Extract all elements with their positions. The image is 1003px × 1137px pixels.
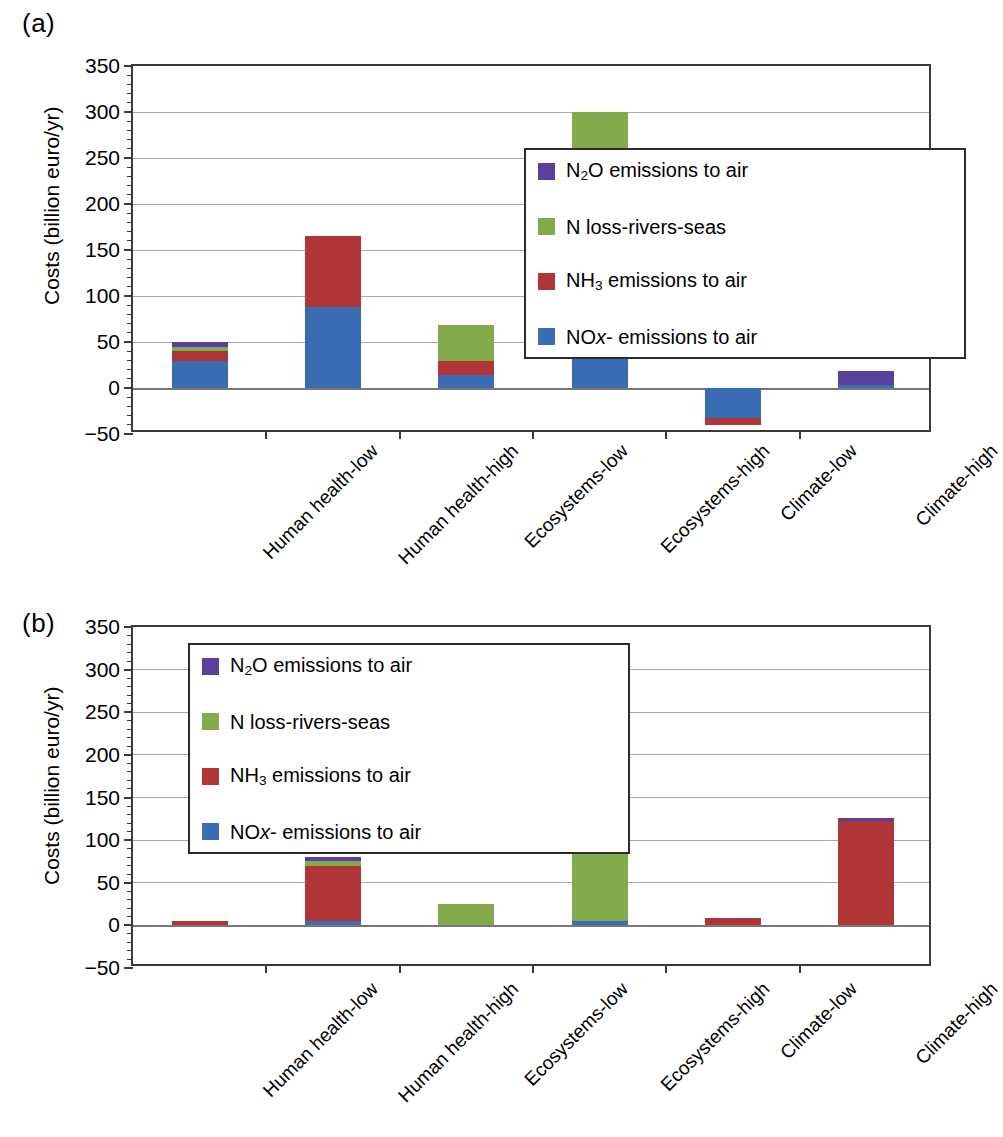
- y-axis-tick: [124, 754, 133, 756]
- legend-item-nh3[interactable]: NH3 emissions to air: [538, 270, 950, 293]
- y-axis-tick: [124, 157, 133, 159]
- bar-segment-nh3-emissions-to-air: [705, 418, 761, 424]
- bar-segment-nox-emissions-to-air: [438, 375, 494, 388]
- y-axis-tick: [124, 65, 133, 67]
- legend-item-nox[interactable]: NOx- emissions to air: [202, 822, 614, 842]
- bar-segment-nh3-emissions-to-air: [438, 361, 494, 375]
- legend-item-nox[interactable]: NOx- emissions to air: [538, 327, 950, 347]
- bar-segment-n2o-emissions-to-air: [172, 342, 228, 347]
- y-axis-minor-tick: [127, 378, 133, 379]
- bar-segment-nh3-emissions-to-air: [172, 921, 228, 925]
- y-axis-minor-tick: [127, 231, 133, 232]
- y-axis-minor-tick: [127, 644, 133, 645]
- y-axis-minor-tick: [127, 121, 133, 122]
- bar-climate-high: [838, 627, 894, 968]
- panel-a-y-axis-label: Costs (billion euro/yr): [40, 107, 64, 305]
- legend-label-nloss: N loss-rivers-seas: [566, 217, 726, 237]
- y-axis-minor-tick: [127, 695, 133, 696]
- y-axis-minor-tick: [127, 185, 133, 186]
- y-axis-minor-tick: [127, 360, 133, 361]
- y-axis-tick: [124, 669, 133, 671]
- y-axis-minor-tick: [127, 720, 133, 721]
- y-axis-minor-tick: [127, 635, 133, 636]
- legend-item-n2o[interactable]: N2O emissions to air: [538, 160, 950, 183]
- y-axis-minor-tick: [127, 771, 133, 772]
- legend-item-nloss[interactable]: N loss-rivers-seas: [202, 712, 614, 732]
- y-axis-tick-label: −50: [84, 422, 120, 446]
- y-axis-minor-tick: [127, 415, 133, 416]
- legend-item-nh3[interactable]: NH3 emissions to air: [202, 765, 614, 788]
- legend-label-nh3: NH3 emissions to air: [230, 765, 411, 788]
- y-axis-minor-tick: [127, 763, 133, 764]
- x-axis-category-label: Ecosystems-high: [656, 978, 774, 1096]
- y-axis-tick-label: 300: [85, 658, 120, 682]
- y-axis-minor-tick: [127, 130, 133, 131]
- panel-a-legend: N2O emissions to airN loss-rivers-seasNH…: [524, 148, 966, 359]
- y-axis-minor-tick: [127, 959, 133, 960]
- y-axis-minor-tick: [127, 139, 133, 140]
- y-axis-tick: [124, 111, 133, 113]
- y-axis-tick-label: 250: [85, 146, 120, 170]
- panel-b-y-axis-label: Costs (billion euro/yr): [40, 687, 64, 885]
- y-axis-minor-tick: [127, 661, 133, 662]
- bar-segment-n-loss-rivers-seas: [172, 347, 228, 352]
- legend-swatch-n2o-icon: [538, 163, 555, 180]
- y-axis-tick: [124, 711, 133, 713]
- y-axis-tick: [124, 839, 133, 841]
- x-axis-category-label: Climate-low: [776, 440, 862, 526]
- y-axis-minor-tick: [127, 814, 133, 815]
- y-axis-minor-tick: [127, 84, 133, 85]
- y-axis-minor-tick: [127, 737, 133, 738]
- y-axis-minor-tick: [127, 788, 133, 789]
- x-axis-tick: [665, 964, 667, 973]
- y-axis-tick: [124, 626, 133, 628]
- y-axis-tick: [124, 203, 133, 205]
- legend-label-nox: NOx- emissions to air: [566, 327, 757, 347]
- legend-item-n2o[interactable]: N2O emissions to air: [202, 655, 614, 678]
- y-axis-tick-label: 300: [85, 100, 120, 124]
- y-axis-tick: [124, 797, 133, 799]
- panel-a: (a) Costs (billion euro/yr) 350300250200…: [0, 0, 966, 600]
- y-axis-minor-tick: [127, 848, 133, 849]
- legend-label-nloss: N loss-rivers-seas: [230, 712, 390, 732]
- bar-segment-nh3-emissions-to-air: [305, 236, 361, 307]
- y-axis-minor-tick: [127, 908, 133, 909]
- y-axis-tick-label: 0: [108, 913, 120, 937]
- y-axis-minor-tick: [127, 93, 133, 94]
- zero-line: [133, 388, 929, 390]
- y-axis-tick: [124, 433, 133, 435]
- legend-swatch-nox-icon: [202, 823, 219, 840]
- y-axis-minor-tick: [127, 369, 133, 370]
- y-axis-minor-tick: [127, 899, 133, 900]
- legend-item-nloss[interactable]: N loss-rivers-seas: [538, 217, 950, 237]
- y-axis-minor-tick: [127, 686, 133, 687]
- x-axis-category-label: Human health-low: [259, 440, 383, 564]
- x-axis-category-label: Climate-high: [912, 440, 1003, 531]
- y-axis-minor-tick: [127, 268, 133, 269]
- bar-segment-nh3-emissions-to-air: [705, 918, 761, 926]
- bar-human-health-high: [305, 66, 361, 434]
- y-axis-tick-label: 50: [97, 871, 120, 895]
- y-axis-minor-tick: [127, 397, 133, 398]
- y-axis-minor-tick: [127, 194, 133, 195]
- bar-segment-nox-emissions-to-air: [572, 921, 628, 925]
- y-axis-minor-tick: [127, 942, 133, 943]
- y-axis-minor-tick: [127, 891, 133, 892]
- y-axis-minor-tick: [127, 933, 133, 934]
- y-axis-tick: [124, 882, 133, 884]
- y-axis-minor-tick: [127, 806, 133, 807]
- y-axis-minor-tick: [127, 857, 133, 858]
- panel-b-label: (b): [22, 608, 55, 639]
- bar-human-health-low: [172, 66, 228, 434]
- bar-segment-n-loss-rivers-seas: [305, 861, 361, 866]
- x-axis-tick: [265, 964, 267, 973]
- legend-swatch-nh3-icon: [202, 768, 219, 785]
- bar-ecosystems-low: [438, 66, 494, 434]
- y-axis-minor-tick: [127, 277, 133, 278]
- legend-label-n2o: N2O emissions to air: [230, 655, 412, 678]
- bar-segment-n2o-emissions-to-air: [305, 857, 361, 860]
- y-axis-minor-tick: [127, 652, 133, 653]
- bar-segment-nh3-emissions-to-air: [838, 821, 894, 925]
- x-axis-category-label: Human health-high: [394, 978, 523, 1107]
- x-axis-category-label: Ecosystems-low: [521, 978, 634, 1091]
